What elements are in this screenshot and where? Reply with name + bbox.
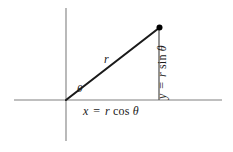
terminal-point-dot — [157, 25, 163, 31]
x-equation-argument: θ — [133, 104, 139, 118]
polar-coordinates-figure: r θ x = r cos θ y = r sin θ — [0, 0, 233, 152]
x-equation-lhs: x — [83, 104, 89, 118]
x-equation-equals: = — [92, 104, 102, 118]
radius-label-text: r — [104, 52, 109, 66]
angle-theta-label: θ — [77, 83, 83, 94]
y-equation-argument: θ — [155, 45, 169, 51]
y-equation-label: y = r sin θ — [156, 45, 168, 99]
x-equation-coefficient: r — [105, 104, 110, 118]
angle-theta-symbol: θ — [77, 82, 83, 94]
y-equation-equals: = — [155, 80, 169, 90]
y-equation-function: sin — [155, 54, 169, 69]
y-equation-lhs: y — [155, 93, 169, 99]
x-equation-label: x = r cos θ — [83, 105, 139, 117]
y-equation-coefficient: r — [155, 72, 169, 77]
figure-canvas — [0, 0, 233, 152]
radius-label: r — [104, 53, 109, 65]
x-equation-function: cos — [113, 104, 130, 118]
